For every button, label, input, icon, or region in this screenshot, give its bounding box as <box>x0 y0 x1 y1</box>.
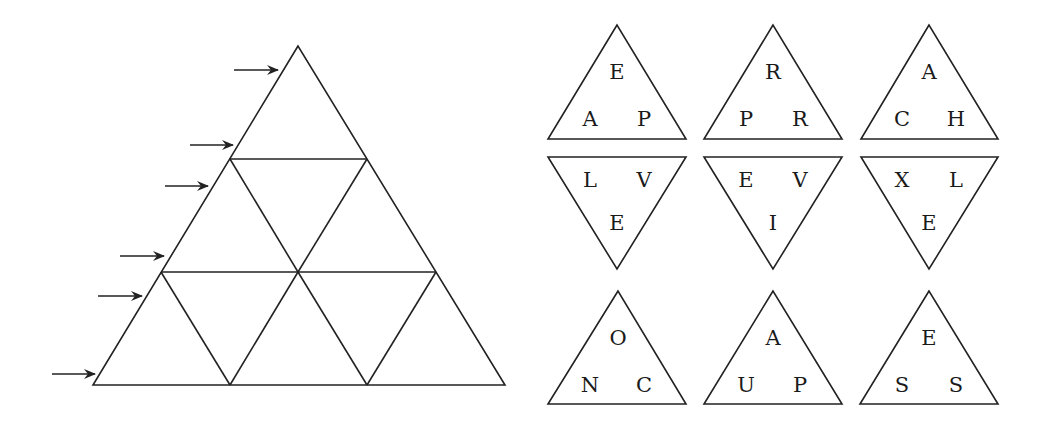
piece[interactable]: A U P <box>704 291 842 404</box>
piece[interactable]: A C H <box>861 25 998 139</box>
grid-diagonal <box>230 272 298 385</box>
piece[interactable]: O N C <box>548 291 686 404</box>
piece-letter: E <box>921 211 936 235</box>
grid-diagonal <box>367 272 436 385</box>
piece-letter: R <box>765 60 782 84</box>
piece-letter: E <box>921 326 936 350</box>
piece-letter: E <box>738 168 753 192</box>
piece-letter: P <box>739 107 753 131</box>
piece-letter: C <box>636 373 652 397</box>
piece-letter: X <box>895 168 910 192</box>
piece-letter: U <box>737 373 755 397</box>
grid-outline <box>93 46 505 385</box>
piece-letter: H <box>947 107 965 131</box>
piece[interactable]: X L E <box>861 157 998 269</box>
triangle-grid <box>93 46 505 385</box>
grid-diagonal <box>161 272 230 385</box>
grid-diagonal <box>298 272 367 385</box>
row-arrows <box>52 70 278 374</box>
piece-letter: L <box>949 168 963 192</box>
piece-letter: N <box>581 373 599 397</box>
piece[interactable]: E A P <box>548 25 686 139</box>
piece-letter: S <box>895 373 909 397</box>
piece-letter: E <box>609 60 624 84</box>
piece-letter: V <box>635 168 652 192</box>
piece-letter: C <box>894 107 910 131</box>
piece-letter: A <box>581 107 598 131</box>
grid-diagonal <box>298 159 367 272</box>
piece-letter: V <box>791 168 808 192</box>
piece[interactable]: R P R <box>704 25 842 139</box>
piece-letter: I <box>769 211 777 235</box>
puzzle-canvas: E A P R P R A C H L V E E V I X L E O N … <box>0 0 1048 427</box>
piece-letter: A <box>764 326 781 350</box>
piece-letter: S <box>949 373 963 397</box>
piece-letter: E <box>609 211 624 235</box>
grid-diagonal <box>230 159 298 272</box>
piece[interactable]: E V I <box>704 157 842 269</box>
piece-letter: L <box>583 168 597 192</box>
piece-letter: P <box>637 107 651 131</box>
piece[interactable]: E S S <box>860 291 998 404</box>
piece[interactable]: L V E <box>548 157 686 269</box>
piece-letter: R <box>792 107 809 131</box>
piece-letter: O <box>609 326 626 350</box>
piece-letter: P <box>793 373 807 397</box>
piece-letter: A <box>920 60 937 84</box>
